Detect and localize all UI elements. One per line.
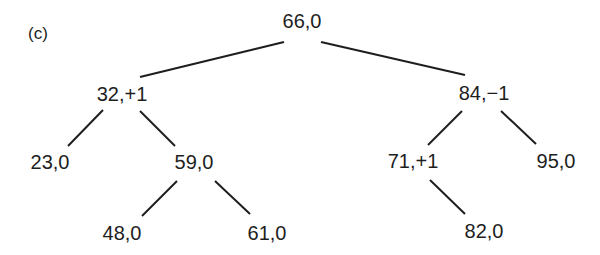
edge-66-84 — [321, 42, 465, 75]
node-23: 23,0 — [31, 152, 70, 172]
node-84: 84,−1 — [459, 83, 510, 103]
tree-edges — [0, 0, 600, 255]
node-95: 95,0 — [537, 151, 576, 171]
node-61: 61,0 — [248, 223, 287, 243]
edge-59-48 — [142, 181, 177, 216]
avl-tree-diagram: (c) 66,0 32,+1 84,−1 23,0 59,0 71,+1 95,… — [0, 0, 600, 255]
edge-71-82 — [430, 180, 465, 214]
node-32: 32,+1 — [97, 84, 148, 104]
edge-84-95 — [501, 111, 536, 144]
node-71: 71,+1 — [388, 151, 439, 171]
node-66: 66,0 — [283, 11, 322, 31]
node-82: 82,0 — [465, 221, 504, 241]
edge-66-32 — [140, 42, 284, 77]
edge-84-71 — [428, 111, 462, 145]
edge-32-23 — [68, 110, 103, 146]
node-59: 59,0 — [175, 152, 214, 172]
edge-32-59 — [140, 111, 175, 146]
edge-59-61 — [215, 181, 250, 214]
node-48: 48,0 — [103, 223, 142, 243]
